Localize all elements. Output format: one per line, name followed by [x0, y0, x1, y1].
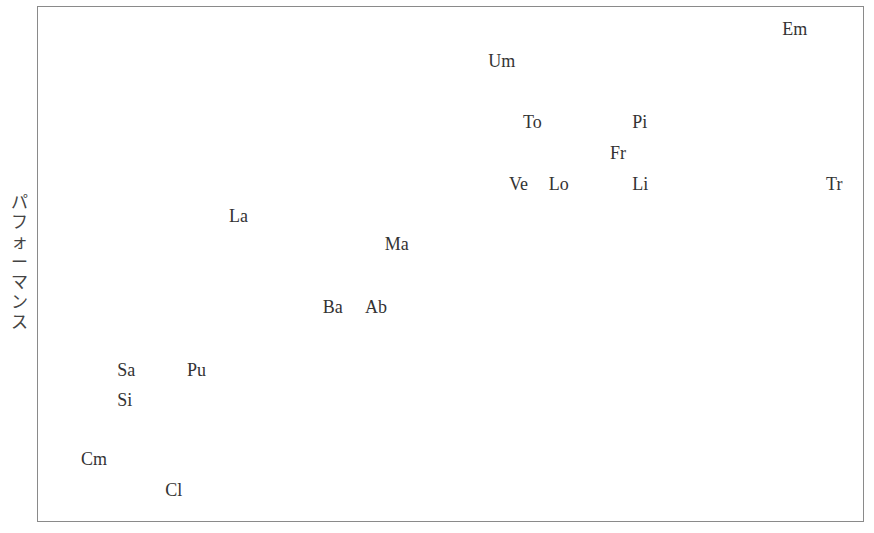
point-label-ma: Ma [385, 235, 409, 253]
point-label-fr: Fr [610, 144, 626, 162]
plot-area [37, 6, 864, 522]
point-label-ab: Ab [365, 298, 387, 316]
point-label-cm: Cm [81, 450, 107, 468]
point-label-to: To [523, 113, 542, 131]
point-label-pi: Pi [632, 113, 647, 131]
point-label-cl: Cl [165, 481, 182, 499]
point-label-la: La [229, 207, 248, 225]
point-label-um: Um [488, 52, 515, 70]
point-label-li: Li [632, 175, 648, 193]
point-label-pu: Pu [187, 361, 206, 379]
point-label-sa: Sa [117, 361, 135, 379]
point-label-ve: Ve [509, 175, 528, 193]
point-label-em: Em [782, 20, 807, 38]
point-label-ba: Ba [323, 298, 343, 316]
point-label-lo: Lo [549, 175, 569, 193]
point-label-si: Si [117, 391, 132, 409]
point-label-tr: Tr [826, 175, 842, 193]
y-axis-label: パフォーマンス [8, 192, 30, 332]
